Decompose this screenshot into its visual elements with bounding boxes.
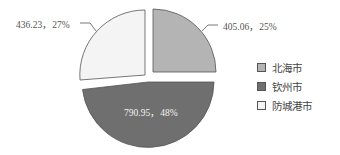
slice-fangchenggang <box>80 10 145 80</box>
legend-label: 北海市 <box>272 60 302 75</box>
legend-item-beihai: 北海市 <box>257 58 312 77</box>
legend: 北海市 钦州市 防城港市 <box>257 58 312 115</box>
legend-item-qinzhou: 钦州市 <box>257 77 312 96</box>
data-label-fangchenggang: 436.23，27% <box>16 17 70 31</box>
legend-swatch-qinzhou <box>257 82 266 91</box>
data-label-beihai: 405.06，25% <box>223 19 277 33</box>
legend-label: 钦州市 <box>272 79 302 94</box>
leader-line-fangchenggang <box>80 23 96 31</box>
legend-label: 防城港市 <box>272 98 312 113</box>
legend-swatch-beihai <box>257 63 266 72</box>
legend-item-fangchenggang: 防城港市 <box>257 96 312 115</box>
legend-swatch-fangchenggang <box>257 101 266 110</box>
slice-beihai <box>153 9 216 72</box>
data-label-qinzhou: 790.95，48% <box>124 105 178 119</box>
leader-line-beihai <box>202 25 218 31</box>
